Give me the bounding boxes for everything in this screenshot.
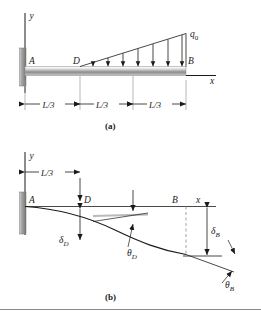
load-magnitude-subscript: 0 — [195, 34, 199, 42]
slope-D-label: θD — [127, 248, 137, 261]
x-axis-label-b: x — [195, 195, 201, 205]
load-magnitude-label: q0 — [190, 29, 199, 42]
figure-container: y q0 A D B x — [0, 0, 261, 317]
panel-a: y q0 A D B x — [20, 11, 217, 131]
deflection-D-subscript: D — [62, 240, 68, 248]
dimension-label-3: L/3 — [148, 100, 162, 110]
dimension-label-b-1: L/3 — [40, 168, 54, 178]
point-label-a-A: A — [28, 56, 35, 66]
fixed-support-wall-b — [20, 192, 27, 234]
beam-member-a — [25, 67, 186, 76]
slope-B-indicator — [228, 240, 235, 254]
distributed-load-arrows — [93, 35, 182, 66]
point-label-b-D: D — [83, 195, 91, 205]
dimension-label-2: L/3 — [95, 100, 109, 110]
dimension-row-a: L/3 L/3 L/3 — [25, 99, 186, 110]
slope-B-subscript: B — [230, 285, 235, 293]
point-label-b-B: B — [172, 195, 178, 205]
tangent-guide-at-D — [93, 215, 148, 217]
dimension-label-1: L/3 — [42, 100, 56, 110]
panel-b: y L/3 x A D B δD θD — [20, 151, 236, 302]
slope-D-leader — [128, 224, 133, 247]
point-label-a-D: D — [72, 56, 80, 66]
point-label-a-B: B — [188, 56, 194, 66]
point-label-b-A: A — [28, 195, 35, 205]
slope-D-subscript: D — [131, 253, 137, 261]
beam-deflection-figure: y q0 A D B x — [0, 0, 261, 317]
deflection-curve — [25, 207, 186, 255]
deflection-D-label: δD — [59, 235, 68, 248]
deflection-B-subscript: B — [215, 231, 220, 239]
deflection-B-label: δB — [211, 226, 220, 239]
triangular-load-outline — [80, 34, 186, 67]
panel-caption-b: (b) — [105, 292, 116, 302]
slope-B-label: θB — [225, 280, 235, 293]
y-axis-label-b: y — [29, 151, 35, 161]
tangent-line-at-B — [186, 255, 234, 273]
x-axis-label-a: x — [209, 76, 215, 86]
y-axis-label-a: y — [29, 11, 35, 21]
panel-caption-a: (a) — [105, 121, 116, 131]
